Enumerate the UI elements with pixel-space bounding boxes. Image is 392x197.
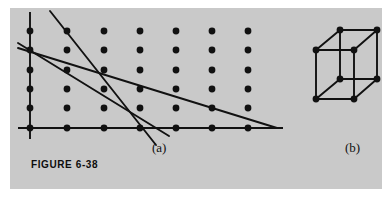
lattice-point [27,125,34,132]
subfigure-a-lattice [18,11,283,145]
lattice-point [64,86,71,93]
subfigure-a-lattice-points [27,28,252,132]
lattice-point [209,28,216,35]
cube-vertex-front-bottom-right [351,96,358,103]
subfigure-a-label: (a) [152,140,166,156]
subfigure-b-cube [313,27,381,103]
cube-vertex-back-bottom-left [337,76,344,83]
lattice-point [209,47,216,54]
lattice-point [137,47,144,54]
lattice-point [64,47,71,54]
figure-caption: FIGURE 6-38 [31,159,98,170]
lattice-point [101,28,108,35]
lattice-line-shallow-line [18,48,277,128]
subfigure-b-cube-vertices [313,27,381,103]
lattice-point [209,67,216,74]
lattice-point [173,105,180,112]
lattice-point [245,47,252,54]
lattice-point [209,105,216,112]
cube-vertex-front-top-right [351,47,358,54]
lattice-point [245,125,252,132]
lattice-point [173,86,180,93]
lattice-point [209,125,216,132]
lattice-point [27,86,34,93]
lattice-point [101,67,108,74]
lattice-point [245,67,252,74]
cube-vertex-front-bottom-left [313,96,320,103]
subfigure-a-lines [18,11,277,145]
lattice-point [64,125,71,132]
lattice-point [137,105,144,112]
lattice-point [27,67,34,74]
lattice-point [245,105,252,112]
cube-edge [316,30,340,50]
figure-container: (a) (b) FIGURE 6-38 [0,0,392,197]
lattice-point [27,105,34,112]
cube-edge [354,79,377,99]
lattice-point [64,28,71,35]
lattice-point [27,47,34,54]
lattice-point [173,67,180,74]
subfigure-b-cube-edges [316,30,377,99]
lattice-point [137,67,144,74]
lattice-point [64,67,71,74]
lattice-point [245,86,252,93]
cube-vertex-front-top-left [313,47,320,54]
cube-vertex-back-top-left [337,27,344,34]
cube-vertex-back-bottom-right [374,76,381,83]
lattice-point [27,28,34,35]
lattice-point [209,86,216,93]
cube-edge [316,79,340,99]
lattice-point [101,86,108,93]
cube-vertex-back-top-right [374,27,381,34]
lattice-line-medium-line [18,43,169,136]
cube-edge [354,30,377,50]
lattice-point [173,125,180,132]
lattice-point [137,125,144,132]
lattice-point [137,86,144,93]
lattice-point [173,47,180,54]
lattice-point [173,28,180,35]
lattice-point [64,105,71,112]
lattice-point [137,28,144,35]
lattice-point [101,105,108,112]
lattice-point [245,28,252,35]
lattice-point [101,47,108,54]
subfigure-b-label: (b) [345,140,360,156]
lattice-point [101,125,108,132]
subfigure-a-axes [18,12,283,139]
